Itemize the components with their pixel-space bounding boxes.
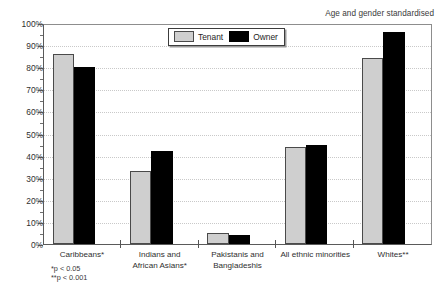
bar-group [44,25,121,244]
chart-footnotes: *p < 0.05 **p < 0.001 [51,265,87,282]
x-axis-label-line1: Indians and [121,250,199,261]
bar-pair [44,25,121,244]
footnote-2: **p < 0.001 [51,274,87,283]
bar-group [276,25,353,244]
x-axis-label-line1: Caribbeans* [43,250,121,261]
x-axis-label-line1: Whites** [354,250,432,261]
legend-label-owner: Owner [253,32,278,42]
legend-item-tenant: Tenant [174,31,223,42]
bar-tenant [207,233,228,244]
x-axis-label: All ethnic minorities [276,249,354,283]
x-axis-label-line1: Pakistanis and [199,250,277,261]
bar-pair [121,25,198,244]
plot-area [43,24,432,245]
x-axis-label-line2: African Asians* [121,261,199,272]
y-axis: 0%10%20%30%40%50%60%70%80%90%100% [0,24,43,245]
chart-annotation: Age and gender standardised [325,9,434,18]
bar-owner [74,67,95,244]
bar-owner [151,151,172,244]
bar-owner [229,235,250,244]
tenant-swatch-icon [174,31,194,42]
y-axis-tick [38,245,43,246]
bar-pair [276,25,353,244]
legend-label-tenant: Tenant [198,32,223,42]
chart-figure: Age and gender standardised 0%10%20%30%4… [0,0,439,295]
x-axis-label: Pakistanis andBangladeshis [199,249,277,283]
bar-tenant [362,58,383,244]
bar-group [354,25,431,244]
bar-owner [383,32,404,244]
x-axis-label: Indians andAfrican Asians* [121,249,199,283]
bar-group [121,25,198,244]
x-axis-label-line2: Bangladeshis [199,261,277,272]
bar-pair [199,25,276,244]
bar-group [199,25,276,244]
chart-legend: Tenant Owner [168,28,285,46]
x-axis-labels: Caribbeans*Indians andAfrican Asians*Pak… [43,249,432,283]
owner-swatch-icon [229,31,249,42]
x-axis-label: Whites** [354,249,432,283]
bar-groups [44,25,431,244]
legend-item-owner: Owner [229,31,278,42]
bar-pair [354,25,431,244]
bar-tenant [285,147,306,244]
x-axis-label-line1: All ethnic minorities [276,250,354,261]
bar-tenant [53,54,74,244]
bar-owner [306,145,327,244]
bar-tenant [130,171,151,244]
